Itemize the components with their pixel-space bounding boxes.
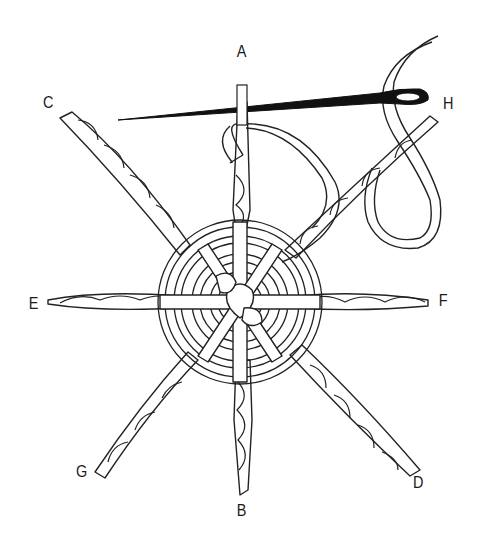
- label-f: F: [439, 292, 448, 309]
- label-a: A: [237, 43, 247, 60]
- diagram-drawing: [0, 0, 478, 552]
- label-b: B: [237, 502, 247, 519]
- label-g: G: [76, 463, 87, 480]
- label-c: C: [43, 94, 53, 111]
- label-e: E: [29, 295, 39, 312]
- needle: [118, 85, 428, 125]
- label-d: D: [413, 474, 423, 491]
- basket-diagram: A B C D E F G H: [0, 0, 478, 552]
- label-h: H: [443, 95, 453, 112]
